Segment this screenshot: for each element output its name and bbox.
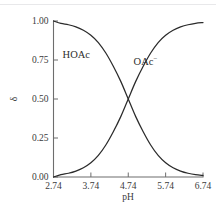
x-tick-label: 5.74 [157,181,174,191]
y-tick-label: 0.25 [32,133,49,143]
curve-oac [54,23,204,177]
y-axis-title: δ [9,96,19,101]
y-tick-label: 0.00 [32,172,49,182]
series-label-hoac: HOAc [63,49,91,60]
x-tick-label: 4.74 [120,181,137,191]
data-curves [54,21,204,177]
y-axis-tick-labels: 0.000.250.500.751.00 [32,16,49,182]
x-tick-label: 6.74 [195,181,212,191]
distribution-diagram-figure: 2.743.744.745.746.74 0.000.250.500.751.0… [0,0,216,216]
x-tick-label: 3.74 [83,181,100,191]
series-label-superscript: − [153,55,157,63]
y-tick-label: 1.00 [32,16,49,26]
y-tick-label: 0.75 [32,55,49,65]
series-label-oac: OAc− [134,55,158,67]
y-tick-label: 0.50 [32,94,49,104]
x-axis-tick-labels: 2.743.744.745.746.74 [45,181,211,191]
x-axis-title: pH [122,192,134,202]
alpha-distribution-plot: 2.743.744.745.746.74 0.000.250.500.751.0… [0,0,216,216]
series-annotations: HOAcOAc− [63,49,158,66]
